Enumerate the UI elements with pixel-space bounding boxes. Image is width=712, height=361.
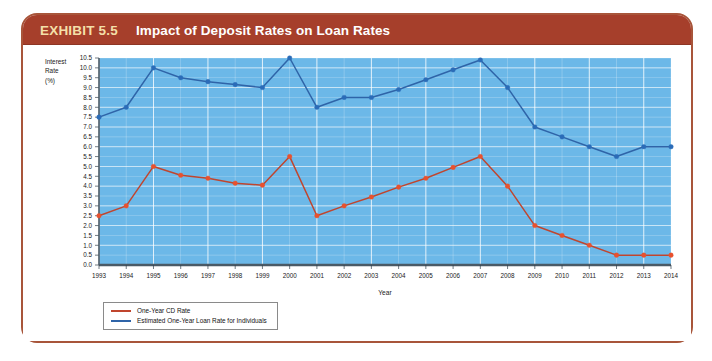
data-point (233, 82, 238, 87)
data-point (478, 154, 483, 159)
y-tick-label: 8.0 (83, 104, 92, 111)
data-point (669, 253, 674, 258)
data-point (369, 95, 374, 100)
data-point (614, 253, 619, 258)
x-tick-label: 2003 (364, 272, 379, 279)
data-point (151, 164, 156, 169)
x-tick-label: 2005 (419, 272, 434, 279)
data-point (206, 176, 211, 181)
line-chart: 0.00.51.01.52.02.53.03.54.04.55.05.56.06… (23, 45, 691, 341)
y-tick-label: 4.0 (83, 182, 92, 189)
exhibit-header: EXHIBIT 5.5 Impact of Deposit Rates on L… (23, 15, 691, 45)
x-tick-label: 2006 (446, 272, 461, 279)
x-tick-label: 2013 (637, 272, 652, 279)
y-tick-label: 10.0 (80, 64, 93, 71)
y-tick-label: 1.0 (83, 242, 92, 249)
data-point (97, 213, 102, 218)
data-point (233, 181, 238, 186)
data-point (369, 195, 374, 200)
data-point (641, 253, 646, 258)
data-point (124, 204, 129, 209)
y-tick-label: 5.5 (83, 153, 92, 160)
y-tick-label: 6.0 (83, 143, 92, 150)
y-tick-label: 2.5 (83, 212, 92, 219)
x-tick-label: 2014 (664, 272, 679, 279)
y-tick-label: 9.0 (83, 84, 92, 91)
legend-swatch-cd (111, 310, 131, 312)
data-point (260, 183, 265, 188)
data-point (533, 125, 538, 130)
chart-legend: One-Year CD Rate Estimated One-Year Loan… (103, 302, 278, 330)
legend-label-loan: Estimated One-Year Loan Rate for Individ… (137, 316, 267, 326)
data-point (424, 77, 429, 82)
data-point (505, 85, 510, 90)
x-tick-label: 1997 (201, 272, 216, 279)
x-tick-label: 2011 (583, 272, 597, 279)
data-point (560, 135, 565, 140)
y-tick-label: 8.5 (83, 94, 92, 101)
x-tick-label: 1993 (92, 272, 107, 279)
x-tick-label: 1994 (119, 272, 134, 279)
data-point (451, 165, 456, 170)
x-tick-label: 2004 (392, 272, 407, 279)
y-tick-label: 7.0 (83, 123, 92, 130)
x-tick-label: 2001 (310, 272, 325, 279)
data-point (669, 144, 674, 149)
y-tick-label: 9.5 (83, 74, 92, 81)
data-point (342, 95, 347, 100)
y-tick-label: 5.0 (83, 163, 92, 170)
y-tick-label: 3.0 (83, 202, 92, 209)
x-tick-label: 2012 (610, 272, 625, 279)
data-point (396, 87, 401, 92)
legend-label-cd: One-Year CD Rate (137, 306, 190, 316)
data-point (178, 173, 183, 178)
exhibit-number: EXHIBIT 5.5 (40, 23, 118, 38)
exhibit-page: EXHIBIT 5.5 Impact of Deposit Rates on L… (0, 0, 712, 361)
data-point (151, 66, 156, 71)
x-tick-label: 2010 (555, 272, 570, 279)
data-point (587, 144, 592, 149)
legend-swatch-loan (111, 320, 131, 322)
data-point (342, 204, 347, 209)
x-tick-label: 1998 (228, 272, 243, 279)
data-point (287, 56, 292, 61)
data-point (478, 58, 483, 63)
y-tick-label: 0.0 (83, 261, 92, 268)
data-point (451, 68, 456, 73)
exhibit-title: Impact of Deposit Rates on Loan Rates (136, 23, 390, 38)
x-tick-label: 2009 (528, 272, 543, 279)
x-axis-title: Year (378, 289, 392, 296)
data-point (614, 154, 619, 159)
data-point (315, 213, 320, 218)
x-tick-label: 1995 (146, 272, 161, 279)
data-point (587, 243, 592, 248)
legend-item-loan: Estimated One-Year Loan Rate for Individ… (111, 316, 267, 326)
data-point (260, 85, 265, 90)
x-tick-label: 1996 (174, 272, 189, 279)
data-point (560, 233, 565, 238)
x-tick-label: 2002 (337, 272, 352, 279)
y-tick-label: 10.5 (80, 54, 93, 61)
y-tick-label: 2.0 (83, 222, 92, 229)
x-tick-label: 2008 (501, 272, 516, 279)
data-point (533, 223, 538, 228)
data-point (424, 176, 429, 181)
data-point (206, 79, 211, 84)
x-tick-label: 2007 (473, 272, 488, 279)
data-point (178, 75, 183, 80)
data-point (97, 115, 102, 120)
x-tick-label: 1999 (255, 272, 270, 279)
y-tick-label: 0.5 (83, 251, 92, 258)
y-tick-label: 6.5 (83, 133, 92, 140)
data-point (287, 154, 292, 159)
data-point (315, 105, 320, 110)
y-tick-label: 4.5 (83, 173, 92, 180)
x-tick-label: 2000 (283, 272, 298, 279)
y-tick-label: 3.5 (83, 192, 92, 199)
data-point (124, 105, 129, 110)
chart-area: Interest Rate (%) 0.00.51.01.52.02.53.03… (23, 45, 691, 341)
y-tick-label: 7.5 (83, 113, 92, 120)
y-tick-label: 1.5 (83, 232, 92, 239)
legend-item-cd: One-Year CD Rate (111, 306, 267, 316)
data-point (505, 184, 510, 189)
